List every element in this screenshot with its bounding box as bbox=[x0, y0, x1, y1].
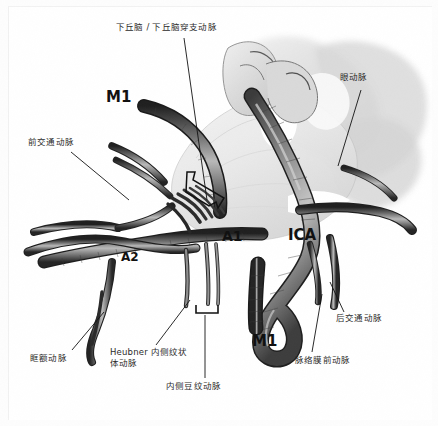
label-posterior-communicating-artery: 后交通动脉 bbox=[336, 313, 382, 324]
label-orbitofrontal-artery: 眶额动脉 bbox=[30, 353, 67, 364]
label-hypothalamic-perforators: 下丘脑 / 下丘脑穿支动脉 bbox=[116, 22, 217, 33]
label-a1-segment: A1 bbox=[222, 228, 243, 244]
label-anterior-communicating-artery: 前交通动脉 bbox=[28, 137, 74, 148]
label-ophthalmic-artery: 眼动脉 bbox=[340, 72, 368, 83]
label-heubner-recurrent-artery: Heubner 内侧纹状体动脉 bbox=[110, 347, 196, 369]
label-medial-lenticulostriate-artery: 内侧豆纹动脉 bbox=[166, 381, 221, 392]
label-anterior-choroidal-artery: 脉络膜前动脉 bbox=[295, 355, 350, 366]
label-m1-inferior: M1 bbox=[252, 332, 277, 350]
label-a2-segment: A2 bbox=[121, 250, 139, 264]
anatomy-figure: 下丘脑 / 下丘脑穿支动脉 前交通动脉 眼动脉 后交通动脉 脉络膜前动脉 眶额动… bbox=[0, 0, 438, 426]
label-m1-superior: M1 bbox=[106, 88, 131, 106]
label-ica-segment: ICA bbox=[288, 226, 316, 244]
